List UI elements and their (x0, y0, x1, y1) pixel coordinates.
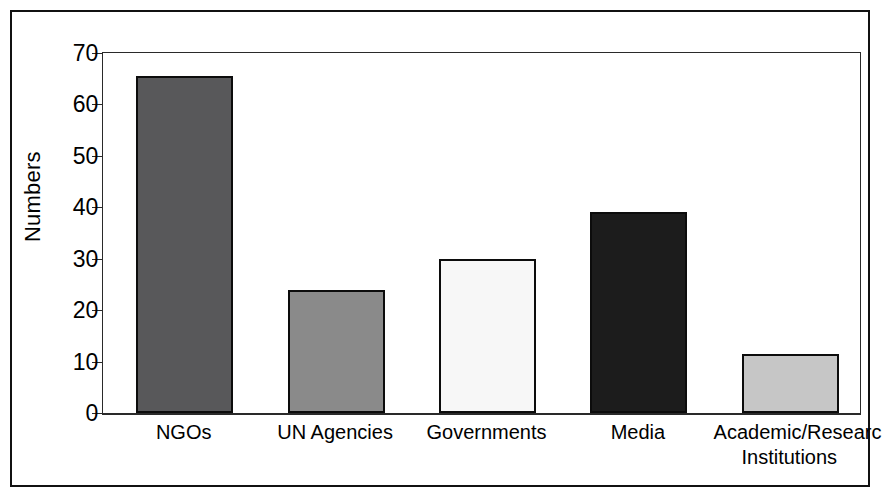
y-axis-tick-label: 60 (73, 93, 98, 116)
y-axis-title: Numbers (20, 151, 46, 242)
bar (742, 354, 839, 413)
bar (288, 290, 385, 413)
bar (136, 76, 233, 413)
x-axis-category-label: Academic/Research Institutions (714, 420, 865, 470)
y-axis-tick-label: 70 (73, 42, 98, 65)
bar (590, 212, 687, 413)
x-axis-category-label: NGOs (108, 420, 259, 445)
x-axis-category-label: Governments (411, 420, 562, 445)
y-axis-tick-label: 50 (73, 144, 98, 167)
y-axis-tick-label: 40 (73, 196, 98, 219)
plot-area: 010203040506070 (102, 52, 861, 413)
bar-chart: Numbers 010203040506070 NGOsUN AgenciesG… (12, 12, 872, 489)
bar (439, 259, 536, 413)
y-axis-tick-label: 10 (73, 350, 98, 373)
x-axis-category-label: UN Agencies (259, 420, 410, 445)
x-axis-category-label: Media (562, 420, 713, 445)
y-axis-tick-label: 20 (73, 299, 98, 322)
y-axis-tick-label: 0 (85, 402, 98, 425)
y-axis-tick-label: 30 (73, 247, 98, 270)
figure-frame: Numbers 010203040506070 NGOsUN AgenciesG… (10, 10, 870, 487)
